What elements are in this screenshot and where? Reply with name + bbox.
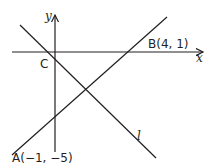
line-l-label: l [137, 129, 141, 143]
point-a-label: A(−1, −5) [12, 151, 73, 165]
coordinate-diagram: x y B(4, 1) C A(−1, −5) l [0, 0, 214, 166]
y-axis-label: y [44, 9, 52, 23]
point-c-label: C [40, 57, 48, 71]
line-ab [12, 17, 167, 155]
x-axis-label: x [196, 51, 203, 65]
point-b-label: B(4, 1) [148, 37, 189, 51]
